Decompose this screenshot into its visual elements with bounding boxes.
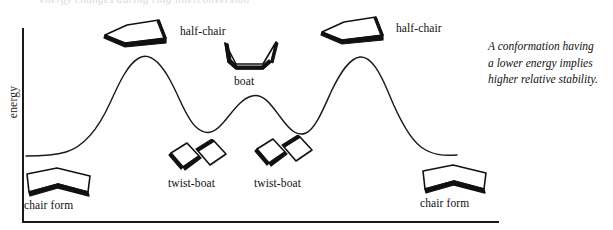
label-twist-boat-left: twist-boat (168, 177, 215, 189)
twist-boat-conformer-icon (254, 135, 316, 171)
boat-conformer-icon (222, 40, 280, 74)
chair-conformer-icon (24, 166, 94, 200)
half-chair-conformer-icon (320, 15, 390, 45)
annotation-line-2: a lower energy implies (488, 55, 610, 72)
twist-boat-conformer-icon (168, 139, 230, 175)
label-twist-boat-right: twist-boat (254, 177, 301, 189)
label-boat: boat (234, 75, 254, 87)
annotation-line-1: A conformation having (488, 38, 610, 55)
label-chair-form-right: chair form (420, 197, 469, 209)
annotation-text: A conformation having a lower energy imp… (488, 38, 610, 88)
half-chair-conformer-icon (103, 18, 173, 48)
label-chair-form-left: chair form (24, 199, 73, 211)
label-half-chair-right: half-chair (396, 22, 442, 34)
label-half-chair-left: half-chair (180, 25, 226, 37)
annotation-line-3: higher relative stability. (488, 71, 610, 88)
chair-conformer-icon (420, 163, 490, 197)
energy-profile-figure: energy changes during ring interconversi… (0, 0, 613, 230)
